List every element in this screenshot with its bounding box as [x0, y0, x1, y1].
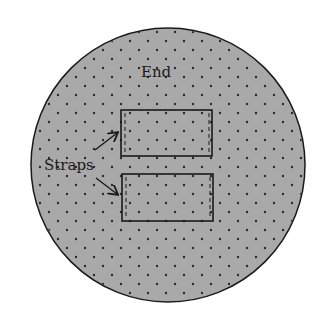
end-piece-diagram: End Straps — [0, 0, 319, 328]
straps-label: Straps — [44, 156, 94, 174]
end-label: End — [141, 63, 172, 81]
